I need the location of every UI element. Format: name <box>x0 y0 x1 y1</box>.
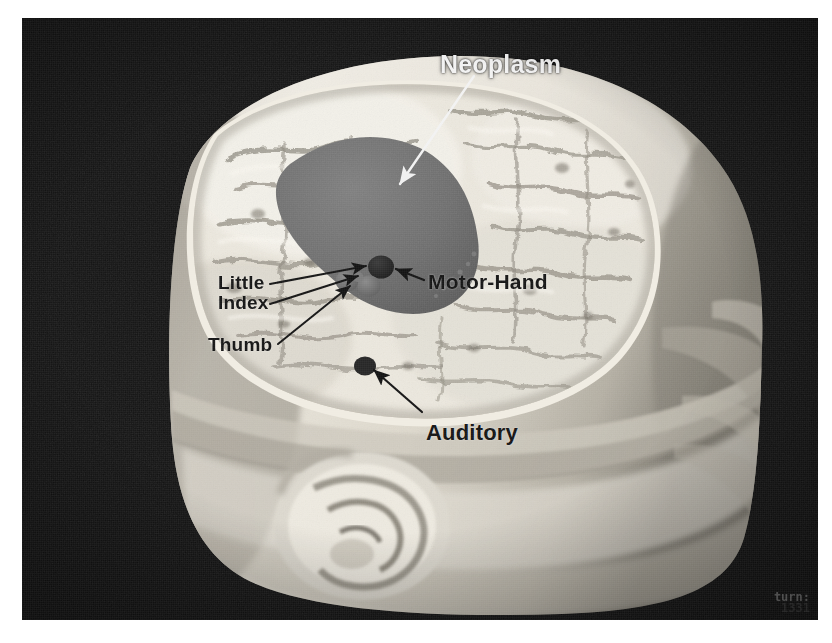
figure-root: Neoplasm Motor-Hand Little Index Thumb A… <box>0 0 832 643</box>
scene-svg <box>22 18 818 620</box>
photograph-plate: Neoplasm Motor-Hand Little Index Thumb A… <box>22 18 818 620</box>
marker-auditory <box>354 357 376 376</box>
marker-motor-hand <box>368 256 394 279</box>
